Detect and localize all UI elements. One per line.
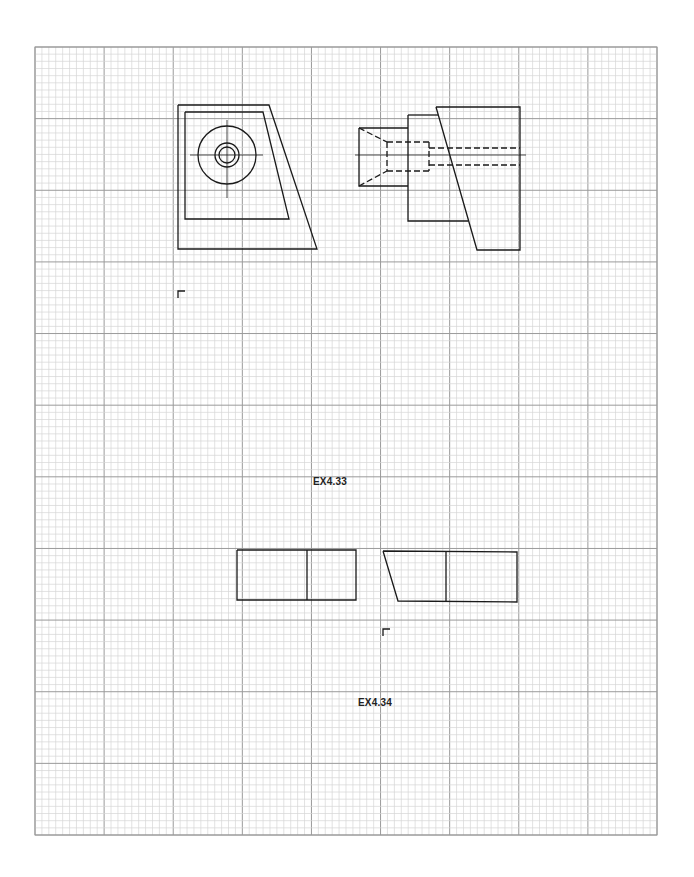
corner-mark-icon bbox=[178, 291, 185, 298]
corner-mark-icon bbox=[383, 629, 390, 636]
exercise-label-ex4-33: EX4.33 bbox=[313, 476, 347, 487]
grid bbox=[35, 47, 657, 835]
graph-paper-sheet bbox=[0, 0, 694, 877]
left-view bbox=[237, 550, 356, 600]
exercise-label-ex4-34: EX4.34 bbox=[358, 697, 392, 708]
front-view bbox=[178, 105, 317, 249]
